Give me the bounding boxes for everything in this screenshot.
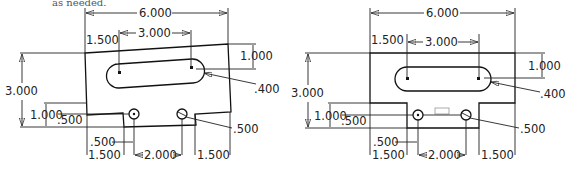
dim-overall-width: 6.000	[139, 6, 172, 20]
drawing-corrected-part: 6.000 1.500 3.000 1.000 .400 3.000 1.000…	[291, 6, 566, 162]
dim-slot-radius: .400	[540, 87, 566, 101]
dim-notch-width: .500	[373, 135, 399, 149]
dim-slot-vertical: 1.000	[240, 49, 273, 63]
slot-center-right	[190, 66, 193, 69]
drawing-skewed-part: 6.000 1.500 3.000 1.000 .400 3.000 1.000…	[5, 6, 280, 162]
slot-center-left	[118, 71, 121, 74]
dim-overall-height: 3.000	[291, 86, 324, 100]
dim-left-step: 1.500	[88, 148, 121, 162]
dim-notch-width: .500	[90, 135, 116, 149]
hole-note-icon	[435, 108, 449, 114]
slot-center-left	[406, 77, 409, 80]
dim-slot-length: 3.000	[425, 35, 458, 49]
slot	[106, 59, 204, 88]
dim-hole-spacing: 2.000	[428, 148, 461, 162]
dim-hole-diameter: .500	[233, 122, 259, 136]
dim-slot-vertical: 1.000	[528, 59, 561, 73]
hole-right-hatch	[178, 112, 186, 116]
slot	[395, 67, 491, 91]
dim-overall-height: 3.000	[5, 84, 38, 98]
hole-left-center	[133, 113, 135, 115]
dim-right-step: 1.500	[481, 148, 514, 162]
dim-hole-spacing: 2.000	[144, 148, 177, 162]
dim-slot-left-offset: 1.500	[371, 33, 404, 47]
dim-left-step: 1.500	[372, 148, 405, 162]
dim-hole-offset: .500	[57, 113, 83, 127]
dim-hole-diameter: .500	[520, 122, 546, 136]
dim-right-step: 1.500	[197, 148, 230, 162]
caption-fragment: as needed.	[52, 0, 106, 8]
dim-slot-radius: .400	[254, 82, 280, 96]
hole-left-center	[417, 114, 419, 116]
hole-right-hatch	[462, 113, 470, 117]
dim-slot-length: 3.000	[138, 26, 171, 40]
slot-center-right	[477, 77, 480, 80]
dim-overall-width: 6.000	[426, 6, 459, 20]
dim-hole-offset: .500	[341, 114, 367, 128]
dim-slot-left-offset: 1.500	[86, 33, 119, 47]
